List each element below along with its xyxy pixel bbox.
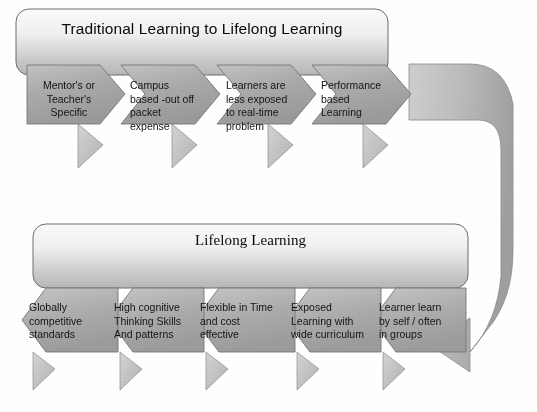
- bottom-flaps: [33, 352, 405, 390]
- diagram-canvas: Traditional Learning to Lifelong Learnin…: [0, 0, 537, 412]
- bottom-banner: [33, 224, 468, 288]
- top-flaps: [78, 124, 388, 168]
- bottom-step-5-shape: [372, 288, 466, 352]
- bottom-step-2-shape: [109, 288, 204, 352]
- bottom-step-4-shape: [286, 288, 381, 352]
- diagram-shapes: [0, 0, 537, 412]
- bottom-step-3-shape: [195, 288, 295, 352]
- bottom-step-1-shape: [22, 288, 118, 352]
- top-step-4-shape: [312, 65, 411, 124]
